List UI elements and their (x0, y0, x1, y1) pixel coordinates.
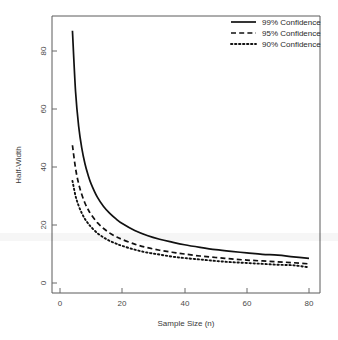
y-axis-title: Half-Width (14, 146, 23, 183)
legend-label-90-confidence: 90% Confidence (262, 40, 321, 49)
x-tick-label-0: 0 (58, 299, 63, 308)
x-axis-title: Sample Size (n) (158, 319, 215, 328)
x-tick-label-20: 20 (118, 299, 127, 308)
y-tick-label-80: 80 (39, 46, 48, 55)
legend-label-99-confidence: 99% Confidence (262, 18, 321, 27)
chart-background (0, 0, 338, 340)
y-tick-label-40: 40 (39, 162, 48, 171)
chart-figure: 0 20 40 60 80 0 20 40 60 80 Sample Size … (0, 0, 338, 340)
y-tick-label-0: 0 (39, 280, 48, 285)
y-tick-label-20: 20 (39, 220, 48, 229)
y-tick-label-60: 60 (39, 104, 48, 113)
legend-label-95-confidence: 95% Confidence (262, 29, 321, 38)
half-width-vs-sample-size-chart: 0 20 40 60 80 0 20 40 60 80 Sample Size … (0, 0, 338, 340)
x-tick-label-40: 40 (181, 299, 190, 308)
x-tick-label-80: 80 (305, 299, 314, 308)
x-tick-label-60: 60 (243, 299, 252, 308)
